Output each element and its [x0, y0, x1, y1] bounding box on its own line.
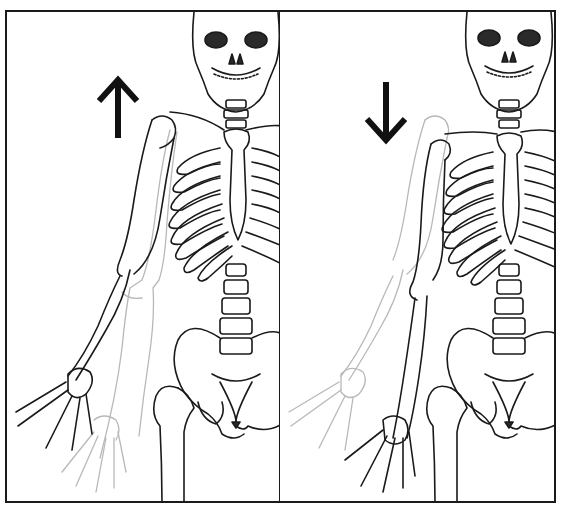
active-arm [16, 116, 176, 450]
sternum [497, 133, 522, 244]
ribcage [169, 148, 280, 281]
cervical-spine [224, 100, 248, 128]
skull [466, 12, 553, 112]
pelvis [174, 328, 280, 438]
pelvis [447, 328, 556, 438]
lumbar-spine [493, 264, 525, 354]
clavicle [445, 132, 497, 134]
up-arrow-icon [99, 80, 137, 138]
skull [193, 12, 280, 112]
cervical-spine [497, 100, 521, 128]
clavicle [170, 112, 224, 130]
down-arrow-icon [367, 82, 405, 140]
panel-depression: shoulder depression [279, 10, 556, 503]
sternum [224, 129, 249, 240]
ghost-arm [289, 116, 449, 450]
skeleton-figure: shoulder elevation [0, 0, 561, 512]
lumbar-spine [220, 264, 252, 354]
active-arm [345, 140, 450, 492]
panel-elevation: shoulder elevation [5, 10, 280, 503]
skeleton-elevation-drawing [7, 12, 280, 503]
skeleton-depression-drawing [280, 12, 556, 503]
femur [154, 386, 194, 503]
femur [427, 386, 467, 503]
